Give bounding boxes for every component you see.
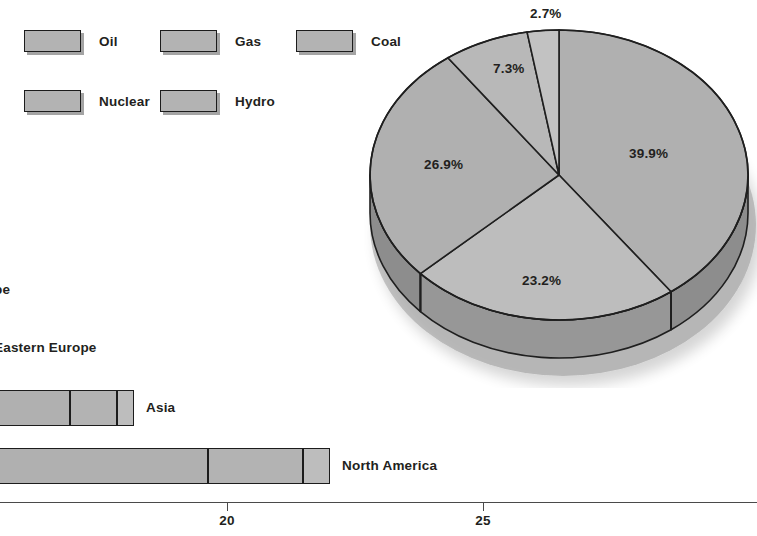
bar-row-north-america[interactable] (0, 448, 330, 484)
legend-item-gas[interactable]: Gas (160, 30, 261, 52)
legend-item-hydro[interactable]: Hydro (160, 90, 275, 112)
bar-label-north-america: North America (342, 448, 437, 484)
x-axis-tick (483, 502, 484, 511)
bar-segment (208, 448, 303, 484)
chart-page: Oil Gas Coal Nuclear Hydro (0, 0, 757, 536)
bar-chart: pe Eastern Europe Asia North America 20 … (0, 255, 757, 536)
legend-item-label: Hydro (235, 94, 275, 109)
bar-category-label-europe: pe (0, 282, 10, 297)
legend-item-oil[interactable]: Oil (24, 30, 118, 52)
legend-item-nuclear[interactable]: Nuclear (24, 90, 150, 112)
pie-label-oil: 39.9% (629, 146, 668, 161)
pie-label-nuclear: 7.3% (493, 61, 525, 76)
bar-segment (0, 390, 70, 426)
bar-segment (0, 448, 208, 484)
bar-label-asia: Asia (146, 390, 175, 426)
x-axis-tick-label: 20 (219, 513, 235, 528)
pie-label-hydro: 2.7% (530, 6, 562, 21)
legend-swatch-icon (24, 90, 81, 112)
legend-swatch-icon (24, 30, 81, 52)
bar-row-asia[interactable] (0, 390, 134, 426)
x-axis-tick (227, 502, 228, 511)
legend-swatch-icon (160, 30, 217, 52)
legend-item-label: Oil (99, 34, 118, 49)
legend-swatch-icon (296, 30, 353, 52)
pie-label-coal: 26.9% (424, 157, 463, 172)
bar-segment (303, 448, 330, 484)
x-axis-tick-label: 25 (475, 513, 491, 528)
legend-item-label: Nuclear (99, 94, 150, 109)
legend-item-label: Gas (235, 34, 261, 49)
bar-segment (117, 390, 134, 426)
legend-swatch-icon (160, 90, 217, 112)
bar-category-label-eastern-europe: Eastern Europe (0, 340, 97, 355)
x-axis-line (0, 502, 757, 503)
bar-segment (70, 390, 117, 426)
